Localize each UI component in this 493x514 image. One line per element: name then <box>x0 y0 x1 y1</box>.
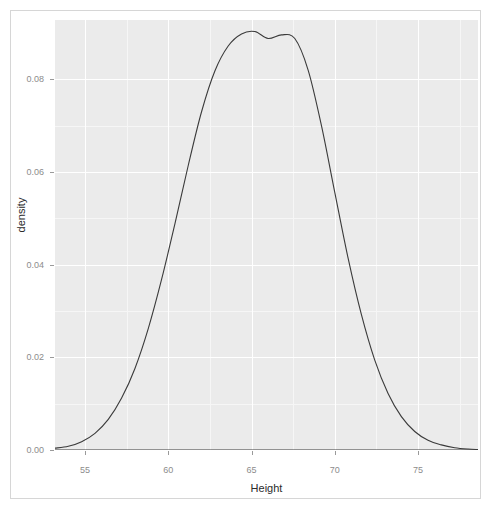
x-tick-mark <box>252 451 253 455</box>
x-tick-label: 60 <box>148 466 188 475</box>
x-axis-title: Height <box>55 482 478 494</box>
x-tick-label: 55 <box>65 466 105 475</box>
density-plot-figure: density 0.000.020.040.060.08 5560657075 … <box>0 0 493 514</box>
y-tick-label: 0.02 <box>0 353 44 362</box>
x-tick-label: 75 <box>398 466 438 475</box>
y-tick-mark <box>50 450 54 451</box>
x-tick-label: 70 <box>315 466 355 475</box>
y-axis-title: density <box>14 0 28 430</box>
y-tick-mark <box>50 265 54 266</box>
density-curve-path <box>55 31 478 449</box>
x-tick-mark <box>85 451 86 455</box>
y-tick-label: 0.00 <box>0 446 44 455</box>
plot-panel <box>55 20 478 450</box>
y-tick-mark <box>50 172 54 173</box>
density-curve-svg <box>55 20 478 450</box>
y-tick-label: 0.08 <box>0 75 44 84</box>
x-tick-mark <box>168 451 169 455</box>
x-tick-mark <box>335 451 336 455</box>
y-axis-title-text: density <box>15 198 27 233</box>
y-tick-label: 0.06 <box>0 168 44 177</box>
y-tick-mark <box>50 357 54 358</box>
x-tick-mark <box>418 451 419 455</box>
y-tick-mark <box>50 79 54 80</box>
y-tick-label: 0.04 <box>0 261 44 270</box>
x-tick-label: 65 <box>232 466 272 475</box>
